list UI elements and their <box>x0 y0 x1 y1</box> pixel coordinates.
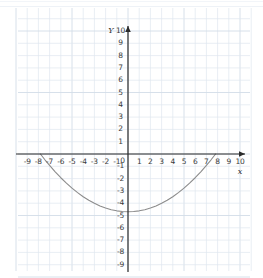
y-tick-label-1: 1 <box>118 138 123 146</box>
coordinate-plane-graph: -9-8-7-6-5-4-3-2-10123456789101098765432… <box>0 0 263 278</box>
x-tick-label-neg8: -8 <box>35 158 42 166</box>
x-tick-label-2: 2 <box>148 158 153 166</box>
y-tick-label-10: 10 <box>116 27 125 35</box>
y-tick-label-3: 3 <box>118 113 123 121</box>
x-tick-label-neg2: -2 <box>102 158 109 166</box>
x-tick-label-neg9: -9 <box>24 158 31 166</box>
x-tick-label-4: 4 <box>171 158 176 166</box>
y-tick-label-neg6: -6 <box>117 224 124 232</box>
x-tick-label-1: 1 <box>137 158 142 166</box>
y-tick-label-6: 6 <box>118 76 123 84</box>
x-tick-label-6: 6 <box>193 158 198 166</box>
y-tick-label-neg8: -8 <box>117 249 124 257</box>
y-axis-name: Y <box>108 27 113 35</box>
x-tick-label-neg4: -4 <box>80 158 87 166</box>
y-tick-label-neg7: -7 <box>117 236 124 244</box>
y-tick-label-8: 8 <box>118 52 123 60</box>
x-tick-label-5: 5 <box>182 158 187 166</box>
x-tick-label-7: 7 <box>204 158 209 166</box>
axes <box>0 0 263 278</box>
y-tick-label-5: 5 <box>118 89 123 97</box>
y-tick-label-neg2: -2 <box>117 175 124 183</box>
y-tick-label-neg3: -3 <box>117 187 124 195</box>
x-tick-label-neg5: -5 <box>68 158 75 166</box>
y-tick-label-2: 2 <box>118 126 123 134</box>
y-tick-label-9: 9 <box>118 40 123 48</box>
x-tick-label-neg7: -7 <box>46 158 53 166</box>
y-tick-label-neg9: -9 <box>117 261 124 269</box>
y-tick-label-neg1: -1 <box>117 163 124 171</box>
y-tick-label-7: 7 <box>118 64 123 72</box>
x-tick-label-9: 9 <box>227 158 232 166</box>
x-tick-label-8: 8 <box>215 158 220 166</box>
x-tick-label-neg6: -6 <box>57 158 64 166</box>
y-tick-label-neg4: -4 <box>117 199 124 207</box>
x-tick-label-neg3: -3 <box>91 158 98 166</box>
y-tick-label-neg5: -5 <box>117 212 124 220</box>
x-tick-label-3: 3 <box>159 158 164 166</box>
x-axis-name: x <box>238 168 243 176</box>
x-tick-label-10: 10 <box>235 158 244 166</box>
y-tick-label-4: 4 <box>118 101 123 109</box>
